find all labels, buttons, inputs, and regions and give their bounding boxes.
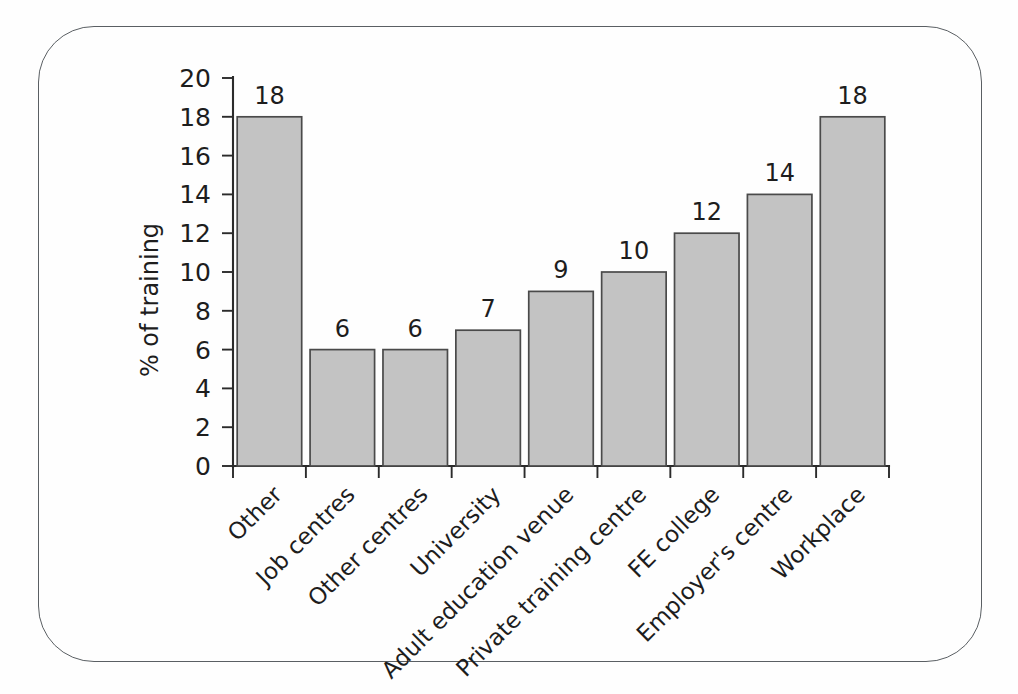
y-tick-label-group: 02468101214161820 xyxy=(179,64,211,481)
bar xyxy=(529,291,594,466)
y-tick-label: 14 xyxy=(179,180,211,209)
y-tick-label: 16 xyxy=(179,142,211,171)
bar-value-label: 7 xyxy=(480,295,495,323)
bar xyxy=(675,233,740,466)
bar-value-label: 6 xyxy=(335,315,350,343)
y-tick-label: 20 xyxy=(179,64,211,93)
y-tick-label: 10 xyxy=(179,258,211,287)
bar-value-label: 18 xyxy=(837,82,868,110)
bar-value-label: 14 xyxy=(764,159,795,187)
y-tick-label: 0 xyxy=(195,452,211,481)
bar xyxy=(310,350,375,466)
bar-value-label: 12 xyxy=(692,198,723,226)
y-tick-label: 6 xyxy=(195,336,211,365)
category-label-group: OtherJob centresOther centresUniversityA… xyxy=(222,481,870,683)
bar-value-label: 6 xyxy=(408,315,423,343)
bar-value-label: 18 xyxy=(254,82,285,110)
bar xyxy=(820,117,885,466)
figure-container: 02468101214161820 18667910121418 OtherJo… xyxy=(0,0,1018,694)
y-tick-label: 2 xyxy=(195,413,211,442)
bar xyxy=(237,117,302,466)
bar xyxy=(602,272,667,466)
bar-chart: 02468101214161820 18667910121418 OtherJo… xyxy=(0,0,1018,694)
bar xyxy=(456,330,521,466)
y-tick-group xyxy=(222,78,233,466)
x-tick-group xyxy=(233,466,889,478)
y-axis-title: % of training xyxy=(136,223,164,377)
bar-value-label: 10 xyxy=(619,237,650,265)
y-tick-label: 4 xyxy=(195,374,211,403)
y-tick-label: 18 xyxy=(179,103,211,132)
bar xyxy=(383,350,448,466)
bar-value-label: 9 xyxy=(553,256,568,284)
bar xyxy=(747,194,812,466)
y-tick-label: 8 xyxy=(195,297,211,326)
y-tick-label: 12 xyxy=(179,219,211,248)
category-label: Other xyxy=(222,481,287,546)
